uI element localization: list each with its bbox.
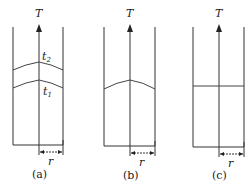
curve-t2	[13, 62, 63, 70]
axis-label-t: T	[35, 7, 44, 20]
panel-b: T r (b)	[104, 7, 155, 182]
panel-a: T t2 t1 r (a)	[13, 7, 63, 181]
dimension-arrows-icon	[220, 152, 243, 156]
dimension-arrows-icon	[131, 151, 154, 155]
r-label-b: r	[139, 156, 145, 169]
arrow-up-icon	[36, 24, 42, 32]
panel-c: T r (c)	[193, 7, 244, 182]
tube-walls-a	[13, 27, 63, 145]
curve-t1	[13, 80, 63, 88]
arrow-up-icon	[127, 24, 133, 32]
axis-label-t: T	[215, 7, 224, 20]
r-label-a: r	[48, 155, 54, 168]
caption-a: (a)	[32, 168, 47, 181]
axis-label-t: T	[126, 7, 135, 20]
caption-c: (c)	[212, 169, 227, 182]
r-label-c: r	[228, 157, 234, 170]
curve-label-t1: t1	[43, 85, 52, 99]
arrow-up-icon	[216, 24, 222, 32]
caption-b: (b)	[123, 169, 139, 182]
temperature-profile-diagram: T t2 t1 r (a) T r (b) T r (c)	[0, 0, 252, 185]
curve-label-t2: t2	[42, 50, 51, 64]
